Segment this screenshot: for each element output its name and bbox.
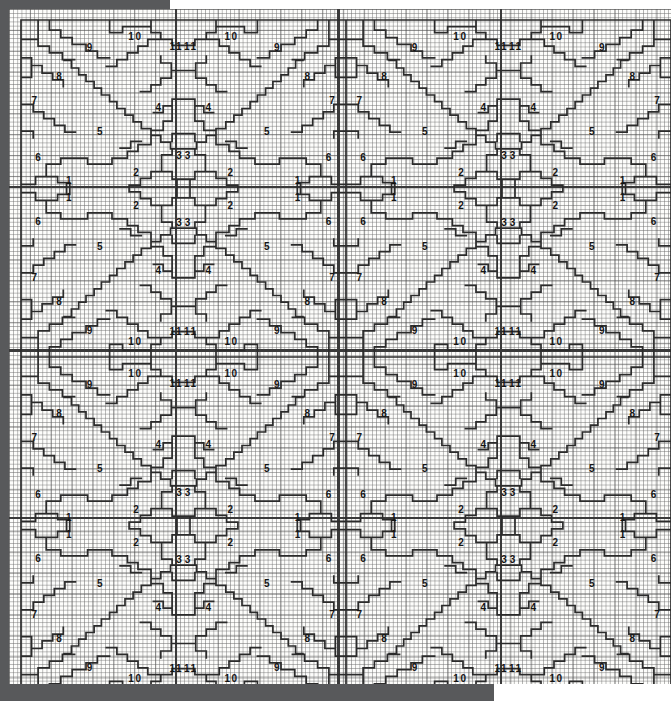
region-number-3: 3 xyxy=(185,149,191,160)
region-number-5: 5 xyxy=(422,126,428,137)
region-number-9: 9 xyxy=(412,42,418,53)
region-number-6: 6 xyxy=(651,552,657,563)
region-number-7: 7 xyxy=(329,608,335,619)
region-number-5: 5 xyxy=(97,577,103,588)
region-number-2: 2 xyxy=(458,537,464,548)
region-number-7: 7 xyxy=(329,271,335,282)
region-number-9: 9 xyxy=(87,42,93,53)
region-number-3: 3 xyxy=(501,554,507,565)
region-number-4: 4 xyxy=(205,101,211,112)
region-number-8: 8 xyxy=(381,70,387,81)
region-number-3: 3 xyxy=(510,217,516,228)
region-number-3: 3 xyxy=(510,554,516,565)
region-number-3: 3 xyxy=(510,486,516,497)
region-number-3: 3 xyxy=(501,217,507,228)
region-number-4: 4 xyxy=(205,602,211,613)
region-number-4: 4 xyxy=(530,438,536,449)
region-number-10: 10 xyxy=(550,335,564,346)
region-number-3: 3 xyxy=(510,149,516,160)
region-number-1: 1 xyxy=(295,191,301,202)
region-number-1: 1 xyxy=(620,512,626,523)
region-number-7: 7 xyxy=(32,271,38,282)
region-number-10: 10 xyxy=(128,335,142,346)
region-number-6: 6 xyxy=(651,488,657,499)
region-number-6: 6 xyxy=(35,552,41,563)
region-number-2: 2 xyxy=(553,537,559,548)
region-number-2: 2 xyxy=(133,537,139,548)
region-number-10: 10 xyxy=(128,672,142,683)
region-number-6: 6 xyxy=(326,552,332,563)
region-number-2: 2 xyxy=(458,200,464,211)
region-number-10: 10 xyxy=(453,672,467,683)
region-number-5: 5 xyxy=(589,240,595,251)
region-number-6: 6 xyxy=(651,151,657,162)
scan-edge-top xyxy=(0,0,170,9)
region-number-9: 9 xyxy=(599,379,605,390)
region-number-2: 2 xyxy=(228,166,234,177)
region-number-6: 6 xyxy=(326,488,332,499)
region-number-10: 10 xyxy=(128,31,142,42)
region-number-7: 7 xyxy=(32,608,38,619)
region-number-11: 11 xyxy=(184,326,198,337)
region-number-6: 6 xyxy=(35,151,41,162)
region-number-8: 8 xyxy=(56,633,62,644)
region-number-11: 11 xyxy=(170,377,184,388)
region-number-11: 11 xyxy=(495,663,509,674)
region-number-1: 1 xyxy=(620,175,626,186)
region-number-9: 9 xyxy=(87,662,93,673)
region-number-7: 7 xyxy=(357,271,363,282)
region-number-5: 5 xyxy=(97,240,103,251)
region-number-11: 11 xyxy=(170,663,184,674)
region-number-5: 5 xyxy=(589,126,595,137)
region-number-8: 8 xyxy=(305,633,311,644)
region-number-7: 7 xyxy=(329,95,335,106)
region-number-8: 8 xyxy=(381,407,387,418)
scan-edge-left xyxy=(0,0,9,684)
region-number-11: 11 xyxy=(495,377,509,388)
region-number-7: 7 xyxy=(357,95,363,106)
region-number-1: 1 xyxy=(391,512,397,523)
seam-line-path xyxy=(21,20,671,684)
region-number-3: 3 xyxy=(176,486,182,497)
region-number-1: 1 xyxy=(66,175,72,186)
region-number-1: 1 xyxy=(391,191,397,202)
region-number-5: 5 xyxy=(264,126,270,137)
region-number-1: 1 xyxy=(295,512,301,523)
region-number-7: 7 xyxy=(329,432,335,443)
region-number-3: 3 xyxy=(176,217,182,228)
region-number-9: 9 xyxy=(274,662,280,673)
region-number-7: 7 xyxy=(654,271,660,282)
region-number-2: 2 xyxy=(553,166,559,177)
region-number-6: 6 xyxy=(326,151,332,162)
region-number-9: 9 xyxy=(412,662,418,673)
region-number-11: 11 xyxy=(184,40,198,51)
region-number-2: 2 xyxy=(553,503,559,514)
region-number-3: 3 xyxy=(185,554,191,565)
region-number-5: 5 xyxy=(264,577,270,588)
region-number-6: 6 xyxy=(326,215,332,226)
region-number-8: 8 xyxy=(56,296,62,307)
region-number-8: 8 xyxy=(305,407,311,418)
region-number-1: 1 xyxy=(620,528,626,539)
region-number-5: 5 xyxy=(589,463,595,474)
region-number-2: 2 xyxy=(133,503,139,514)
region-number-2: 2 xyxy=(553,200,559,211)
region-number-10: 10 xyxy=(550,31,564,42)
region-number-5: 5 xyxy=(264,240,270,251)
region-number-4: 4 xyxy=(155,101,161,112)
region-number-11: 11 xyxy=(495,40,509,51)
region-number-5: 5 xyxy=(97,126,103,137)
region-number-11: 11 xyxy=(184,663,198,674)
region-number-8: 8 xyxy=(56,407,62,418)
region-number-6: 6 xyxy=(360,488,366,499)
region-number-9: 9 xyxy=(599,325,605,336)
region-number-9: 9 xyxy=(412,325,418,336)
region-number-5: 5 xyxy=(422,577,428,588)
region-number-9: 9 xyxy=(599,662,605,673)
region-number-1: 1 xyxy=(66,512,72,523)
region-number-6: 6 xyxy=(360,151,366,162)
region-number-2: 2 xyxy=(458,503,464,514)
region-number-8: 8 xyxy=(630,70,636,81)
region-number-6: 6 xyxy=(35,215,41,226)
region-number-7: 7 xyxy=(32,432,38,443)
